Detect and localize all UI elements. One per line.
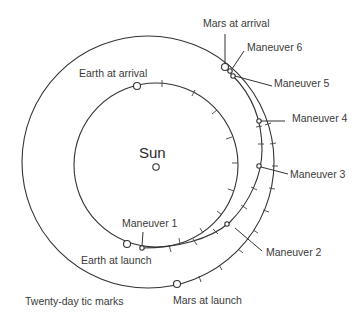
maneuver-2-label: Maneuver 2 xyxy=(266,246,322,258)
mars-arrival-label: Mars at arrival xyxy=(203,17,270,29)
maneuver-1-marker xyxy=(140,246,144,250)
mars-launch-marker xyxy=(174,281,181,288)
maneuver-2-marker xyxy=(225,222,229,226)
earth-arrival-label: Earth at arrival xyxy=(79,67,147,79)
maneuver-1-label: Maneuver 1 xyxy=(122,217,178,229)
earth-launch-marker xyxy=(124,241,131,248)
maneuver-6-label: Maneuver 6 xyxy=(247,41,303,53)
maneuver-4-marker xyxy=(257,119,261,123)
maneuver-5-label: Maneuver 5 xyxy=(274,77,330,89)
mars-launch-label: Mars at launch xyxy=(173,294,242,306)
earth-launch-label: Earth at launch xyxy=(81,254,152,266)
mars-orbit xyxy=(22,36,274,288)
sun-label: Sun xyxy=(139,144,166,161)
maneuver-3-marker xyxy=(257,164,261,168)
maneuver-3-leader xyxy=(261,167,288,174)
mars-orbit-tic-marks xyxy=(199,123,278,282)
tic-marks-footnote: Twenty-day tic marks xyxy=(25,295,124,307)
maneuver-6-marker xyxy=(228,69,232,73)
maneuver-6-leader xyxy=(232,51,244,69)
maneuver-1-leader xyxy=(142,232,143,246)
maneuver-5-marker xyxy=(231,74,235,78)
trajectory-tic-marks xyxy=(169,126,264,252)
maneuver-2-leader xyxy=(235,228,262,251)
mars-arrival-marker xyxy=(222,64,229,71)
maneuver-3-label: Maneuver 3 xyxy=(290,168,346,180)
orbit-transfer-diagram: Sun Earth at arrival Earth at launch Man… xyxy=(0,0,364,320)
earth-arrival-marker xyxy=(134,83,141,90)
maneuver-4-label: Maneuver 4 xyxy=(292,112,348,124)
sun-marker xyxy=(153,164,159,170)
